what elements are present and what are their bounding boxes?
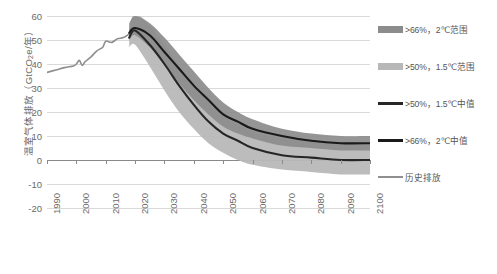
legend-item[interactable]: 历史排放 xyxy=(378,170,497,184)
y-axis-tick-label: 50 xyxy=(31,35,42,46)
x-axis-tick-label: 2050 xyxy=(227,193,238,214)
legend-swatch-icon xyxy=(378,102,403,105)
y-axis-tick-label: -20 xyxy=(28,203,42,214)
y-axis-tick-label: 60 xyxy=(31,11,42,22)
legend-label: >66%，2℃中值 xyxy=(405,134,468,146)
legend-item[interactable]: >66%，2℃范围 xyxy=(378,22,497,36)
x-axis-tick-label: 2080 xyxy=(315,193,326,214)
legend-swatch-icon xyxy=(378,176,403,178)
legend-swatch-icon xyxy=(378,26,403,33)
x-axis-tick-label: 2060 xyxy=(257,193,268,214)
x-axis-tick-label: 2030 xyxy=(168,193,179,214)
x-axis-tick-label: 2040 xyxy=(198,193,209,214)
x-axis-tick xyxy=(341,160,342,164)
plot-area: 6050403020100-10-20 19902000201020202030… xyxy=(47,16,370,208)
x-axis-tick xyxy=(47,160,48,164)
y-axis-tick-label: 0 xyxy=(37,155,42,166)
legend-label: >50%，1.5℃中值 xyxy=(405,97,475,109)
y-axis-tick-label: 20 xyxy=(31,107,42,118)
legend-item[interactable]: >50%，1.5℃范围 xyxy=(378,59,497,73)
x-axis-tick xyxy=(106,160,107,164)
x-axis-tick xyxy=(135,160,136,164)
y-axis-tick-label: -10 xyxy=(28,179,42,190)
x-axis-tick xyxy=(311,160,312,164)
x-axis-tick-label: 2090 xyxy=(345,193,356,214)
legend-label: >50%，1.5℃范围 xyxy=(405,60,475,72)
x-axis-tick-label: 2000 xyxy=(80,193,91,214)
x-axis-tick xyxy=(76,160,77,164)
legend-swatch-icon xyxy=(378,139,403,142)
x-axis-tick xyxy=(282,160,283,164)
y-axis-tick-label: 40 xyxy=(31,59,42,70)
legend-item[interactable]: >66%，2℃中值 xyxy=(378,133,497,147)
series-line xyxy=(47,32,132,72)
series-layer xyxy=(47,16,370,208)
y-axis-tick-label: 30 xyxy=(31,83,42,94)
x-axis-tick-label: 1990 xyxy=(51,193,62,214)
x-axis-tick xyxy=(164,160,165,164)
x-axis-tick xyxy=(223,160,224,164)
legend-swatch-icon xyxy=(378,63,403,70)
legend-label: >66%，2℃范围 xyxy=(405,23,468,35)
x-axis-tick xyxy=(253,160,254,164)
x-axis-tick-label: 2070 xyxy=(286,193,297,214)
x-axis-tick-label: 2020 xyxy=(139,193,150,214)
chart-root: 温室气体排放（GtCO2e/年） 6050403020100-10-20 199… xyxy=(0,0,497,274)
y-axis-tick-label: 10 xyxy=(31,131,42,142)
x-axis-tick xyxy=(370,160,371,164)
chart-svg xyxy=(47,16,370,208)
legend-label: 历史排放 xyxy=(405,171,441,183)
legend-item[interactable]: >50%，1.5℃中值 xyxy=(378,96,497,110)
chart-legend: >66%，2℃范围>50%，1.5℃范围>50%，1.5℃中值>66%，2℃中值… xyxy=(378,22,497,207)
x-axis-tick-label: 2010 xyxy=(110,193,121,214)
x-axis-tick xyxy=(194,160,195,164)
